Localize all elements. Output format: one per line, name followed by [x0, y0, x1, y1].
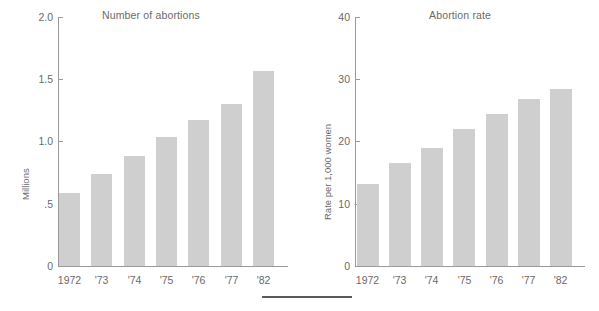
y-tick-right-4: [355, 17, 360, 18]
y-tick-right-3: [355, 79, 360, 80]
bar-right-5: [518, 99, 540, 266]
bar-left-2: [124, 156, 145, 266]
x-tick-label-left-6: '82: [241, 274, 286, 286]
chart-panel-abortion-rate: Abortion rate Rate per 1,000 women 40 30…: [300, 0, 599, 311]
y-tick-label-left-2: 1.0: [20, 135, 53, 147]
y-tick-label-right-2: 20: [317, 135, 350, 147]
y-tick-label-left-4: 2.0: [20, 11, 53, 23]
bar-right-3: [453, 129, 475, 266]
bar-right-1: [389, 163, 411, 266]
bar-left-5: [221, 104, 242, 266]
y-tick-label-right-0: 0: [317, 260, 350, 272]
y-tick-right-0: [355, 266, 360, 267]
bar-right-6: [550, 89, 572, 266]
bar-right-0: [357, 184, 379, 266]
y-tick-label-left-1: .5: [20, 198, 53, 210]
bar-right-2: [421, 148, 443, 266]
y-tick-left-3: [58, 79, 63, 80]
y-tick-right-2: [355, 141, 360, 142]
y-tick-left-4: [58, 17, 63, 18]
bar-left-3: [156, 137, 177, 266]
y-tick-label-right-3: 30: [317, 73, 350, 85]
y-tick-left-2: [58, 141, 63, 142]
y-tick-label-left-3: 1.5: [20, 73, 53, 85]
y-axis-line-right: [355, 17, 356, 267]
plot-area-right: 40 30 20 10 0 1972 '73 '74 '75 '76 '77: [300, 0, 599, 311]
bar-left-4: [188, 120, 209, 266]
bar-right-4: [486, 114, 508, 266]
x-tick-label-right-6: '82: [538, 274, 583, 286]
bottom-separator-rule: [262, 296, 352, 298]
plot-area-left: 2.0 1.5 1.0 .5 0 1972 '73 '74 '75 '76 '7…: [0, 0, 299, 311]
bar-left-1: [91, 174, 112, 266]
bar-left-0: [59, 193, 80, 266]
x-axis-line-left: [58, 266, 288, 267]
y-tick-label-left-0: 0: [20, 260, 53, 272]
y-tick-left-0: [58, 266, 63, 267]
bar-left-6: [253, 71, 274, 266]
chart-panel-number-of-abortions: Number of abortions Millions 2.0 1.5 1.0…: [0, 0, 299, 311]
abortion-statistics-figure: Number of abortions Millions 2.0 1.5 1.0…: [0, 0, 599, 311]
x-axis-line-right: [355, 266, 585, 267]
y-tick-label-right-1: 10: [317, 198, 350, 210]
y-tick-label-right-4: 40: [317, 11, 350, 23]
